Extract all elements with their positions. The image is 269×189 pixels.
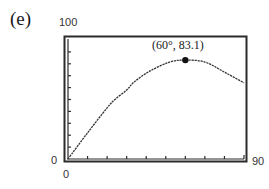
plot-frame — [65, 37, 247, 162]
max-point-marker — [182, 57, 188, 63]
data-curve — [68, 60, 244, 159]
plot-area — [0, 0, 269, 189]
